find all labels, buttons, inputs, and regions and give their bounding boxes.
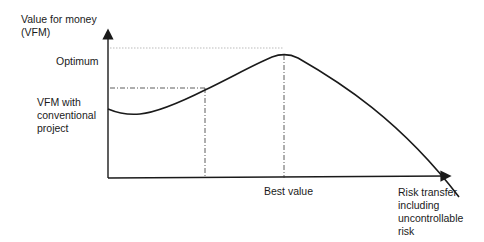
x-axis-label-line4: risk	[398, 225, 414, 237]
optimum-label: Optimum	[56, 55, 99, 67]
x-axis-label-line2: including	[398, 199, 439, 211]
vfm-diagram: Value for money (VFM) Optimum VFM with c…	[0, 0, 484, 242]
x-axis-label-line1: Risk transfer	[398, 186, 457, 198]
conventional-label-line3: project	[37, 122, 69, 134]
best-value-label: Best value	[264, 185, 313, 197]
y-axis-label-line1: Value for money	[21, 13, 97, 25]
y-axis-label-line2: (VFM)	[21, 26, 50, 38]
x-axis-label-line3: uncontrollable	[398, 212, 463, 224]
conventional-label-line1: VFM with	[37, 96, 81, 108]
conventional-label-line2: conventional	[37, 109, 96, 121]
x-axis	[108, 176, 446, 178]
